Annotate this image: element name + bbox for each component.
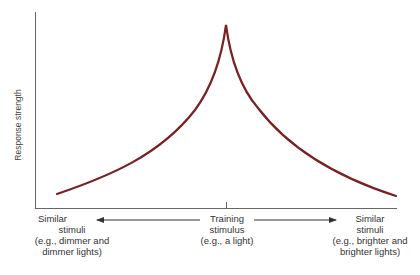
right-label-line: (e.g., brighter and [325,235,415,246]
left-label-line: (e.g., dimmer and [32,235,112,246]
left-label-line: Similar [32,213,112,224]
center-label-line: stimulus [196,224,258,235]
left-label-line: dimmer lights) [32,246,112,257]
left-stimuli-label: Similar stimuli (e.g., dimmer and dimmer… [32,213,112,257]
center-label-line: (e.g., a light) [196,235,258,246]
y-axis-label: Response strength [8,70,28,180]
generalization-curve [57,25,396,196]
left-label-line: stimuli [32,224,112,235]
right-label-line: brighter lights) [325,246,415,257]
right-label-line: Similar [325,213,415,224]
y-axis-label-text: Response strength [13,89,23,160]
right-label-line: stimuli [325,224,415,235]
right-stimuli-label: Similar stimuli (e.g., brighter and brig… [325,213,415,257]
training-stimulus-label: Training stimulus (e.g., a light) [196,213,258,246]
center-label-line: Training [196,213,258,224]
